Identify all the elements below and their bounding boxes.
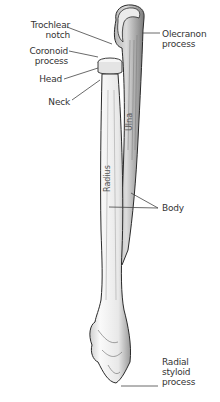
bone-label-ulna: Ulna xyxy=(125,113,134,131)
label-neck: Neck xyxy=(36,97,70,107)
label-trochlear-notch: Trochlear notch xyxy=(18,20,70,40)
bone-label-radius: Radius xyxy=(103,165,112,192)
label-radial-styloid-process: Radial styloid process xyxy=(162,357,212,387)
leader-trochlear-notch xyxy=(67,27,112,44)
label-coronoid-process: Coronoid process xyxy=(18,46,68,66)
label-body: Body xyxy=(162,203,202,213)
label-head: Head xyxy=(28,74,62,84)
leader-neck xyxy=(72,80,100,100)
leader-head xyxy=(64,68,98,79)
leader-coronoid-process xyxy=(69,51,98,57)
label-olecranon-process: Olecranon process xyxy=(162,29,220,49)
anatomy-diagram: Trochlear notch Coronoid process Head Ne… xyxy=(0,0,220,402)
leader-body-ulna xyxy=(131,193,158,208)
